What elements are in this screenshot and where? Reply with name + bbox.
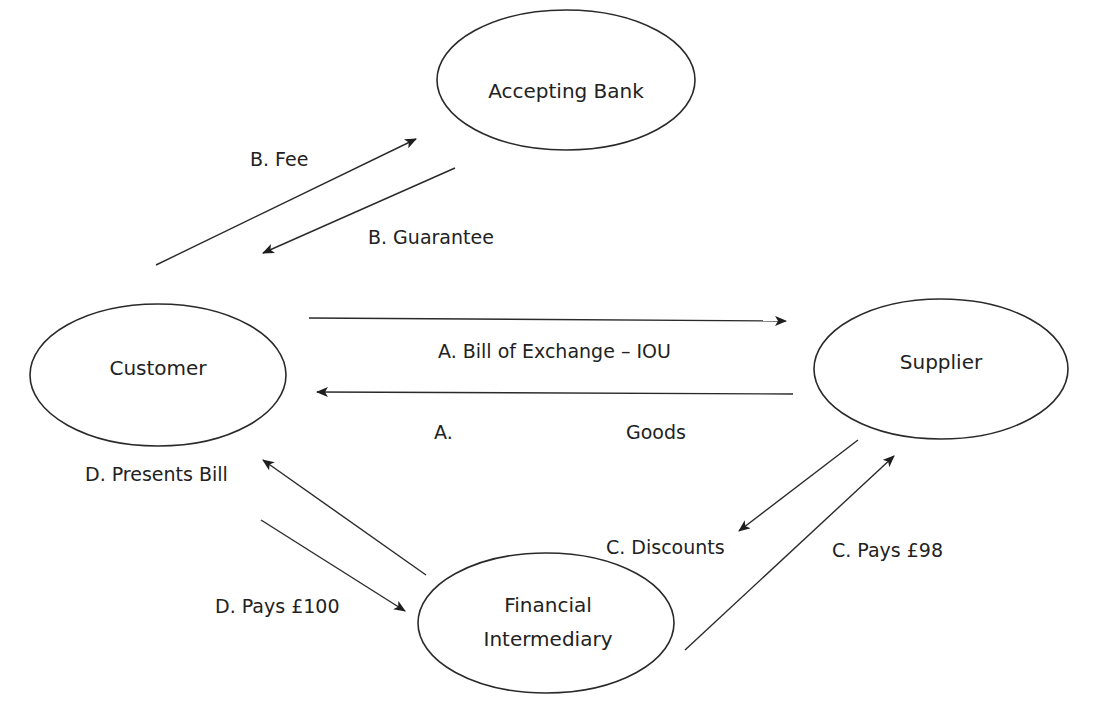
edge-a-bill-arrow: [309, 318, 786, 321]
node-customer: Customer: [30, 304, 286, 446]
edge-b-guarantee-label: B. Guarantee: [368, 226, 494, 248]
node-supplier: Supplier: [814, 299, 1068, 439]
edge-d-presents-bill-label: D. Presents Bill: [85, 463, 228, 485]
edge-c-discounts-arrow: [739, 440, 858, 531]
node-financial-intermediary: Financial Intermediary: [418, 553, 674, 693]
edge-a-goods-label: Goods: [626, 421, 686, 443]
node-financial-intermediary-label-line1: Financial: [504, 593, 592, 617]
node-accepting-bank: Accepting Bank: [437, 10, 695, 150]
edge-d-pays-label: D. Pays £100: [215, 595, 340, 617]
edge-a-goods-label-prefix: A.: [434, 421, 453, 443]
node-customer-label: Customer: [109, 356, 207, 380]
edge-c-discounts-label: C. Discounts: [606, 536, 725, 558]
edge-d-presents-bill-arrow: [263, 460, 426, 575]
node-financial-intermediary-label-line2: Intermediary: [484, 627, 613, 651]
node-accepting-bank-label: Accepting Bank: [488, 79, 644, 103]
node-financial-intermediary-shape: [418, 553, 674, 693]
diagram-canvas: Accepting Bank Customer Supplier Financi…: [0, 0, 1095, 719]
edge-b-fee-label: B. Fee: [250, 148, 308, 170]
node-supplier-label: Supplier: [900, 350, 983, 374]
edge-c-pays-label: C. Pays £98: [832, 539, 943, 561]
edge-a-bill-label: A. Bill of Exchange – IOU: [438, 340, 671, 362]
edge-a-goods-arrow: [317, 392, 793, 394]
